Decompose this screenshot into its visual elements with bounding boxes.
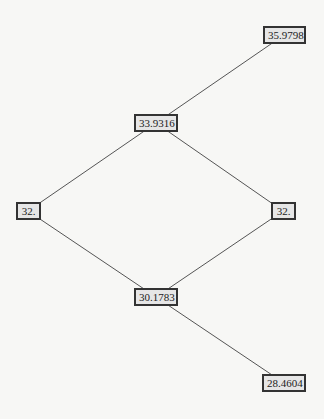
node-upper-middle: 33.9316: [134, 114, 178, 132]
node-right: 32.: [271, 202, 296, 220]
node-left: 32.: [16, 202, 41, 220]
node-bottom: 28.4604: [262, 374, 306, 392]
edge-n5-n6: [156, 297, 284, 383]
edge-n2-n4: [156, 123, 283, 211]
edge-n2-n3: [28, 123, 156, 211]
edge-n3-n5: [28, 211, 156, 297]
edge-n1-n2: [156, 35, 284, 123]
edge-n4-n5: [156, 211, 283, 297]
node-top: 35.9798: [263, 26, 306, 44]
node-lower-middle: 30.1783: [134, 288, 178, 306]
